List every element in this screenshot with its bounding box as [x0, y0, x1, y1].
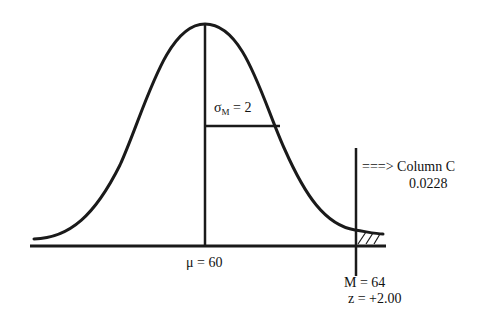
sigma-symbol: σ: [214, 100, 222, 115]
mu-label: μ = 60: [186, 255, 222, 271]
normal-curve: [34, 24, 383, 239]
proportion-value: 0.0228: [409, 176, 448, 192]
column-c-arrow-label: ===> Column C: [362, 159, 455, 175]
sample-mean-label: M = 64: [344, 275, 385, 291]
sigma-label: σM = 2: [214, 100, 251, 117]
sigma-value: = 2: [230, 100, 252, 115]
sigma-subscript: M: [222, 107, 230, 117]
z-score-label: z = +2.00: [348, 291, 402, 307]
